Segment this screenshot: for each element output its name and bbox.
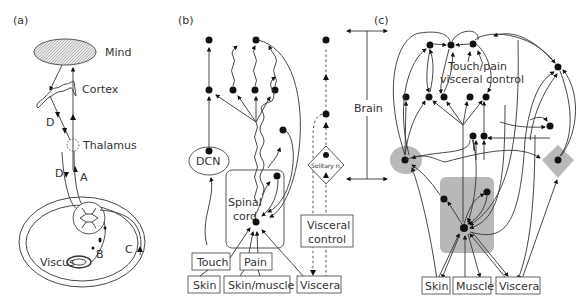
figure-canvas: (a) Mind Cortex D Thalamus D A bbox=[0, 0, 587, 308]
cortex-shape bbox=[37, 81, 76, 108]
touch-pain-label: Touch/pain bbox=[447, 60, 507, 73]
pathway-b: B bbox=[96, 248, 104, 261]
pathway-c: C bbox=[125, 243, 133, 256]
spinal-cord-label-1: Spinal bbox=[228, 196, 262, 209]
pain-label: Pain bbox=[244, 256, 267, 269]
panel-c-label: (c) bbox=[374, 14, 389, 27]
pathway-d-upper: D bbox=[46, 116, 54, 129]
spinal-cord-section bbox=[73, 202, 105, 234]
touch-label: Touch bbox=[196, 256, 229, 269]
cortex-label: Cortex bbox=[82, 83, 119, 96]
panel-a-label: (a) bbox=[13, 14, 28, 27]
muscle-label-c: Muscle bbox=[456, 280, 494, 293]
pathway-d-lower: D bbox=[55, 167, 63, 180]
visceral-control-label-2: control bbox=[308, 233, 346, 246]
viscera-label-b: Viscera bbox=[300, 279, 340, 292]
skin-label-c: Skin bbox=[425, 280, 448, 293]
mind-label: Mind bbox=[105, 46, 132, 59]
solitary-label: Solitary n. bbox=[311, 162, 342, 170]
panel-b: (b) DCN bbox=[178, 14, 387, 293]
viscera-label-c: Viscera bbox=[499, 280, 539, 293]
visceral-control-label-1: Visceral bbox=[307, 219, 350, 232]
viscus-label: Viscus bbox=[40, 256, 75, 269]
spinal-cord-box bbox=[226, 170, 284, 248]
panel-b-label: (b) bbox=[178, 14, 194, 27]
mind-shape bbox=[34, 39, 96, 65]
skin-label-b: Skin bbox=[193, 279, 216, 292]
skin-muscle-label: Skin/muscle bbox=[228, 279, 295, 292]
pathway-a: A bbox=[80, 171, 88, 184]
panel-a: (a) Mind Cortex D Thalamus D A bbox=[13, 14, 145, 287]
thalamus-label: Thalamus bbox=[82, 139, 137, 152]
dcn-label: DCN bbox=[196, 155, 220, 168]
panel-c: (c) Touch/pain visceral control bbox=[374, 14, 576, 294]
brain-label: Brain bbox=[354, 102, 383, 115]
visceral-control-label-c: visceral control bbox=[440, 73, 524, 86]
